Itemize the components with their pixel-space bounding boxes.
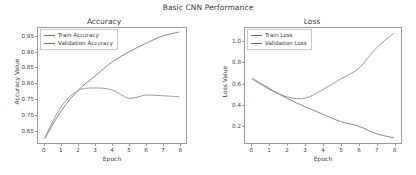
- xtick-label: 6: [144, 147, 148, 153]
- ytick-mark: [35, 36, 37, 37]
- legend-label-train-loss: Train Loss: [265, 32, 292, 40]
- ytick-mark: [242, 62, 244, 63]
- accuracy-panel: Accuracy Accuracy Value Epoch 0.650.700.…: [0, 0, 208, 175]
- xtick-label: 4: [321, 147, 325, 153]
- loss-xlabel: Epoch: [244, 155, 402, 162]
- ytick-mark: [242, 126, 244, 127]
- xtick-label: 0: [42, 147, 46, 153]
- ytick-label: 0.2: [222, 123, 241, 129]
- ytick-label: 0.85: [15, 64, 34, 70]
- line-swatch-icon: [44, 35, 55, 36]
- ytick-mark: [35, 115, 37, 116]
- ytick-mark: [242, 84, 244, 85]
- ytick-mark: [35, 99, 37, 100]
- xtick-mark: [180, 144, 181, 146]
- xtick-mark: [78, 144, 79, 146]
- line-swatch-icon: [251, 43, 262, 44]
- xtick-label: 2: [76, 147, 80, 153]
- xtick-label: 1: [267, 147, 271, 153]
- legend-item-train-accuracy: Train Accuracy: [44, 32, 113, 40]
- ytick-label: 0.75: [15, 96, 34, 102]
- legend-item-validation-accuracy: Validation Accuracy: [44, 40, 113, 48]
- xtick-mark: [251, 144, 252, 146]
- xtick-label: 7: [161, 147, 165, 153]
- xtick-mark: [129, 144, 130, 146]
- xtick-mark: [146, 144, 147, 146]
- line-swatch-icon: [44, 43, 55, 44]
- legend-item-train-loss: Train Loss: [251, 32, 307, 40]
- xtick-mark: [287, 144, 288, 146]
- legend-label-train-accuracy: Train Accuracy: [58, 32, 99, 40]
- xtick-mark: [95, 144, 96, 146]
- xtick-mark: [377, 144, 378, 146]
- xtick-mark: [341, 144, 342, 146]
- ytick-label: 0.65: [15, 128, 34, 134]
- legend-label-validation-loss: Validation Loss: [265, 40, 307, 48]
- series-line-train-loss: [252, 78, 394, 138]
- ytick-mark: [35, 83, 37, 84]
- ytick-mark: [35, 67, 37, 68]
- xtick-mark: [269, 144, 270, 146]
- xtick-mark: [359, 144, 360, 146]
- xtick-mark: [395, 144, 396, 146]
- loss-panel: Loss Loss Value Epoch 0.20.40.60.81.0012…: [208, 0, 416, 175]
- ytick-label: 0.4: [222, 102, 241, 108]
- xtick-mark: [112, 144, 113, 146]
- loss-title: Loss: [208, 17, 416, 26]
- xtick-label: 5: [127, 147, 131, 153]
- xtick-mark: [163, 144, 164, 146]
- accuracy-xlabel: Epoch: [37, 155, 187, 162]
- ytick-mark: [35, 52, 37, 53]
- figure-canvas: Basic CNN Performance Accuracy Accuracy …: [0, 0, 416, 175]
- xtick-label: 1: [59, 147, 63, 153]
- xtick-label: 2: [285, 147, 289, 153]
- xtick-mark: [44, 144, 45, 146]
- xtick-label: 4: [110, 147, 114, 153]
- ytick-label: 0.80: [15, 80, 34, 86]
- xtick-label: 6: [357, 147, 361, 153]
- loss-legend: Train Loss Validation Loss: [247, 29, 312, 50]
- ytick-mark: [242, 105, 244, 106]
- ytick-mark: [242, 41, 244, 42]
- xtick-label: 7: [375, 147, 379, 153]
- accuracy-legend: Train Accuracy Validation Accuracy: [40, 29, 118, 50]
- xtick-label: 8: [178, 147, 182, 153]
- legend-label-validation-accuracy: Validation Accuracy: [58, 40, 113, 48]
- xtick-label: 8: [393, 147, 397, 153]
- xtick-mark: [61, 144, 62, 146]
- ytick-label: 0.90: [15, 49, 34, 55]
- ytick-label: 0.6: [222, 81, 241, 87]
- ytick-label: 0.70: [15, 112, 34, 118]
- ytick-label: 1.0: [222, 38, 241, 44]
- legend-item-validation-loss: Validation Loss: [251, 40, 307, 48]
- xtick-label: 0: [249, 147, 253, 153]
- accuracy-title: Accuracy: [0, 17, 208, 26]
- xtick-label: 3: [303, 147, 307, 153]
- ytick-mark: [35, 131, 37, 132]
- xtick-label: 3: [93, 147, 97, 153]
- xtick-mark: [305, 144, 306, 146]
- ytick-label: 0.95: [15, 33, 34, 39]
- line-swatch-icon: [251, 35, 262, 36]
- series-line-validation-accuracy: [45, 88, 180, 138]
- ytick-label: 0.8: [222, 59, 241, 65]
- xtick-label: 5: [339, 147, 343, 153]
- xtick-mark: [323, 144, 324, 146]
